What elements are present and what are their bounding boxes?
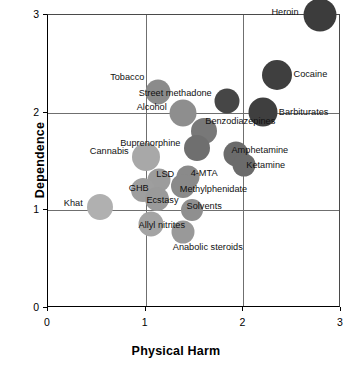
- x-tick-mark-3: [340, 307, 341, 311]
- bubble-cocaine[interactable]: [262, 60, 292, 90]
- y-axis-title: Dependence: [33, 122, 47, 198]
- point-label-benzodiazepines: Benzodiazepines: [205, 118, 275, 127]
- y-tick-label-1: 1: [25, 203, 39, 215]
- x-tick-label-1: 1: [142, 316, 148, 328]
- y-tick-label-0: 0: [25, 301, 39, 313]
- point-label-amphetamine: Amphetamine: [231, 146, 288, 155]
- x-tick-label-3: 3: [337, 316, 343, 328]
- y-tick-mark-0: [43, 307, 47, 308]
- point-label-street-methadone: Street methadone: [139, 89, 212, 98]
- bubble-alcohol[interactable]: [169, 99, 196, 126]
- point-label-4-mta: 4-MTA: [191, 170, 218, 179]
- x-axis-title: Physical Harm: [0, 344, 352, 358]
- x-tick-label-2: 2: [239, 316, 245, 328]
- point-label-cocaine: Cocaine: [294, 70, 328, 79]
- x-tick-mark-1: [145, 307, 146, 311]
- bubble-heroin[interactable]: [303, 0, 336, 32]
- y-tick-label-3: 3: [25, 8, 39, 20]
- point-label-solvents: Solvents: [187, 203, 222, 212]
- point-label-ketamine: Ketamine: [246, 162, 285, 171]
- point-label-anabolic-steroids: Anabolic steroids: [173, 243, 243, 252]
- point-label-methylphenidate: Methylphenidate: [180, 185, 247, 194]
- point-label-lsd: LSD: [156, 170, 174, 179]
- point-label-heroin: Heroin: [271, 8, 298, 17]
- x-tick-label-0: 0: [44, 316, 50, 328]
- point-label-tobacco: Tobacco: [110, 74, 144, 83]
- bubble-khat[interactable]: [87, 194, 113, 220]
- point-label-buprenorphine: Buprenorphine: [120, 139, 180, 148]
- y-tick-label-2: 2: [25, 106, 39, 118]
- y-tick-mark-1: [43, 209, 47, 210]
- bubble-street-methadone[interactable]: [214, 88, 239, 113]
- bubble-buprenorphine[interactable]: [184, 135, 210, 161]
- point-label-alcohol: Alcohol: [137, 103, 167, 112]
- point-label-khat: Khat: [64, 200, 83, 209]
- point-label-barbiturates: Barbiturates: [279, 108, 329, 117]
- point-label-allyl-nitrites: Allyl nitrites: [139, 221, 185, 230]
- x-tick-mark-0: [47, 307, 48, 311]
- point-label-cannabis: Cannabis: [90, 147, 129, 156]
- y-tick-mark-2: [43, 112, 47, 113]
- x-tick-mark-2: [242, 307, 243, 311]
- y-tick-mark-3: [43, 14, 47, 15]
- bubble-chart-figure: HeroinCocaineBarbituratesStreet methadon…: [0, 0, 352, 365]
- point-label-ghb: GHB: [129, 184, 149, 193]
- plot-area: [47, 14, 340, 307]
- point-label-ecstasy: Ecstasy: [146, 196, 178, 205]
